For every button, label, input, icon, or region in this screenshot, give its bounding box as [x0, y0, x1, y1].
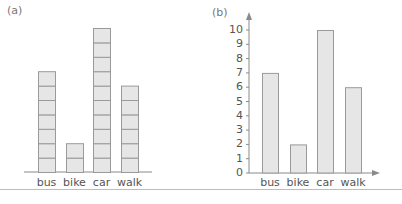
unit-block-bus: [39, 129, 56, 143]
unit-block-car: [94, 158, 111, 172]
unit-block-car: [94, 144, 111, 158]
unit-block-car: [94, 57, 111, 71]
y-tick-label: 8: [227, 52, 243, 65]
unit-block-walk: [122, 158, 139, 172]
panel-a-category-label: walk: [115, 176, 145, 189]
y-tick-label: 7: [227, 66, 243, 79]
bar-walk: [346, 88, 362, 173]
unit-block-walk: [122, 144, 139, 158]
panel-b-category-label: walk: [338, 176, 368, 189]
unit-block-car: [94, 72, 111, 86]
unit-block-car: [94, 43, 111, 57]
unit-block-car: [94, 115, 111, 129]
unit-block-walk: [122, 101, 139, 115]
unit-block-bike: [67, 144, 84, 158]
y-tick-label: 10: [227, 23, 243, 36]
y-tick-label: 5: [227, 95, 243, 108]
charts-canvas: [0, 0, 402, 204]
bar-car: [318, 31, 334, 174]
panel-b-category-label: bus: [255, 176, 285, 189]
unit-block-bus: [39, 158, 56, 172]
unit-block-walk: [122, 115, 139, 129]
bottom-divider: [0, 189, 402, 190]
y-axis-arrow-icon: [246, 12, 252, 20]
y-tick-label: 9: [227, 37, 243, 50]
unit-block-car: [94, 29, 111, 43]
unit-block-car: [94, 86, 111, 100]
y-tick-label: 3: [227, 123, 243, 136]
unit-block-bus: [39, 72, 56, 86]
y-tick-label: 0: [227, 166, 243, 179]
unit-block-car: [94, 129, 111, 143]
y-tick-label: 2: [227, 137, 243, 150]
y-tick-label: 1: [227, 152, 243, 165]
y-tick-label: 4: [227, 109, 243, 122]
unit-block-car: [94, 101, 111, 115]
panel-a-category-label: bike: [60, 176, 90, 189]
unit-block-walk: [122, 86, 139, 100]
bar-bike: [291, 145, 307, 173]
x-axis-arrow-icon: [372, 170, 380, 176]
unit-block-bus: [39, 144, 56, 158]
panel-a-category-label: bus: [32, 176, 62, 189]
panel-b-category-label: bike: [283, 176, 313, 189]
panel-a-category-label: car: [87, 176, 117, 189]
unit-block-bus: [39, 101, 56, 115]
panel-b-category-label: car: [310, 176, 340, 189]
bar-bus: [263, 73, 279, 173]
y-tick-label: 6: [227, 80, 243, 93]
unit-block-bus: [39, 115, 56, 129]
unit-block-bike: [67, 158, 84, 172]
unit-block-walk: [122, 129, 139, 143]
unit-block-bus: [39, 86, 56, 100]
